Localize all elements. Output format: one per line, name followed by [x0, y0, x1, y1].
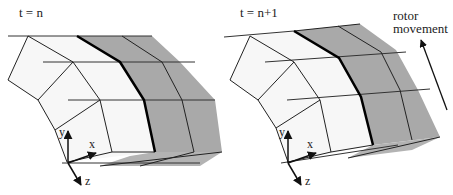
panel-title-t-n-plus-1: t = n+1 [240, 6, 278, 19]
z-axis-label: z [305, 175, 310, 187]
y-axis-label: y [59, 126, 65, 138]
x-axis-label: x [89, 138, 95, 150]
panel-title-t-n: t = n [19, 6, 43, 19]
rotor-movement-arrow [421, 40, 447, 110]
x-axis-label: x [307, 138, 313, 150]
panel-t-n-plus-1 [224, 24, 447, 185]
panel-t-n [8, 36, 222, 185]
z-axis-label: z [85, 175, 90, 187]
movement-label: movement [393, 22, 448, 35]
y-axis-label: y [279, 126, 285, 138]
mesh-diagram [0, 0, 453, 195]
